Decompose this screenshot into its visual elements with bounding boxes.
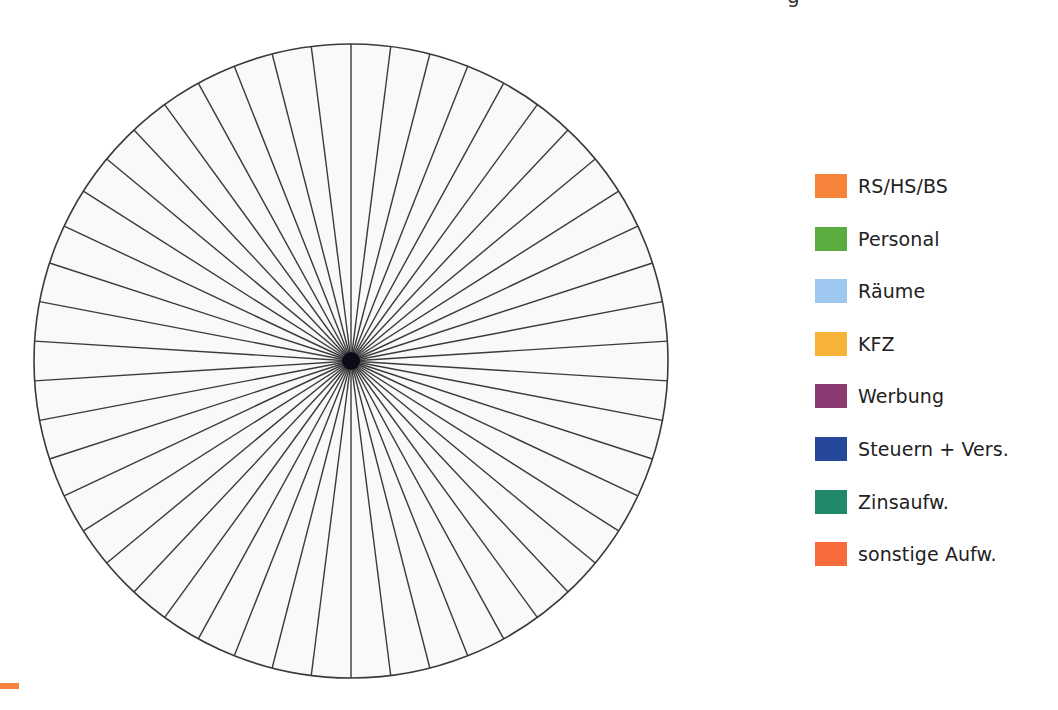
legend-label: Zinsaufw. [858,491,949,513]
legend-label: Werbung [858,385,944,407]
legend-item: RS/HS/BS [815,173,948,199]
pie-chart-template [0,0,710,710]
legend-swatch [815,490,847,514]
pie-center-hub [342,352,360,370]
legend-swatch [815,174,847,198]
legend-swatch [815,332,847,356]
legend-item: sonstige Aufw. [815,541,997,567]
legend-item: Werbung [815,383,944,409]
legend-label: KFZ [858,333,895,355]
legend-swatch [815,542,847,566]
legend-label: Räume [858,280,925,302]
legend-label: Steuern + Vers. [858,438,1009,460]
legend-swatch [815,227,847,251]
legend-item: KFZ [815,331,895,357]
orange-accent-bar [0,683,19,689]
legend-label: sonstige Aufw. [858,543,997,565]
legend-label: Personal [858,228,940,250]
legend-swatch [815,437,847,461]
legend-label: RS/HS/BS [858,175,948,197]
legend-item: Personal [815,226,940,252]
cropped-heading-fragment: g [787,0,800,6]
legend-swatch [815,279,847,303]
legend-item: Räume [815,278,925,304]
legend-item: Zinsaufw. [815,489,949,515]
legend-item: Steuern + Vers. [815,436,1009,462]
legend-swatch [815,384,847,408]
